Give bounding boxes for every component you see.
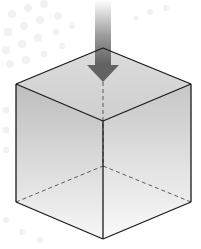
cube-diagram [0, 0, 201, 249]
down-arrow-icon [87, 0, 119, 82]
